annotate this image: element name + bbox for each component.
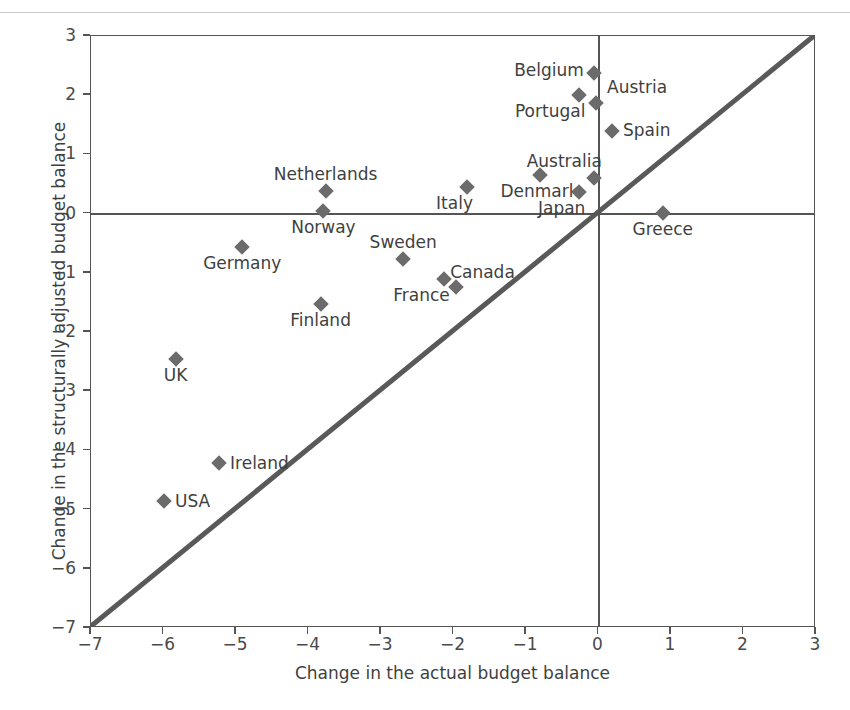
data-point-label: Ireland: [230, 454, 289, 473]
x-tick-mark: [379, 627, 381, 634]
data-point-label: Belgium: [514, 61, 584, 80]
y-tick-mark: [83, 271, 90, 273]
x-tick-label: −7: [70, 634, 110, 654]
data-point-label: USA: [175, 492, 210, 511]
y-tick-mark: [83, 449, 90, 451]
x-tick-mark: [162, 627, 164, 634]
y-tick-mark: [83, 212, 90, 214]
y-tick-mark: [83, 567, 90, 569]
plot-frame: [90, 35, 815, 627]
y-axis-title: Change in the structurally adjusted budg…: [49, 11, 69, 671]
data-point-label: Finland: [290, 311, 351, 330]
x-tick-label: −3: [360, 634, 400, 654]
y-tick-mark: [83, 34, 90, 36]
x-tick-label: −6: [143, 634, 183, 654]
data-point-label: Canada: [450, 263, 515, 282]
x-tick-mark: [307, 627, 309, 634]
x-tick-mark: [597, 627, 599, 634]
y-tick-mark: [83, 508, 90, 510]
data-point-label: Netherlands: [274, 165, 378, 184]
data-point-label: France: [393, 286, 450, 305]
data-point-label: Japan: [538, 199, 585, 218]
y-tick-mark: [83, 330, 90, 332]
y-tick-mark: [83, 93, 90, 95]
data-point-label: Greece: [632, 220, 693, 239]
data-point-label: Sweden: [370, 233, 437, 252]
x-tick-mark: [234, 627, 236, 634]
x-tick-mark: [742, 627, 744, 634]
x-tick-mark: [814, 627, 816, 634]
x-tick-label: −2: [433, 634, 473, 654]
y-tick-mark: [83, 153, 90, 155]
data-point-label: Germany: [203, 254, 281, 273]
x-tick-label: 0: [578, 634, 618, 654]
top-divider-rule: [0, 12, 850, 13]
data-point-label: Norway: [291, 218, 356, 237]
x-tick-label: −1: [505, 634, 545, 654]
x-tick-label: 1: [650, 634, 690, 654]
data-point-label: Portugal: [515, 102, 585, 121]
x-tick-label: 3: [795, 634, 835, 654]
data-point-label: Italy: [436, 194, 473, 213]
x-axis-title: Change in the actual budget balance: [90, 663, 815, 683]
y-tick-mark: [83, 626, 90, 628]
x-tick-mark: [524, 627, 526, 634]
x-tick-mark: [452, 627, 454, 634]
data-point-label: UK: [164, 366, 188, 385]
y-tick-mark: [83, 389, 90, 391]
x-tick-label: −4: [288, 634, 328, 654]
x-tick-mark: [669, 627, 671, 634]
data-point-label: Spain: [623, 121, 671, 140]
x-tick-mark: [89, 627, 91, 634]
chart-container: −7−6−5−4−3−2−10123 3210−1−2−3−4−5−6−7 Be…: [0, 0, 850, 710]
x-tick-label: 2: [723, 634, 763, 654]
x-tick-label: −5: [215, 634, 255, 654]
data-point-label: Austria: [607, 78, 667, 97]
